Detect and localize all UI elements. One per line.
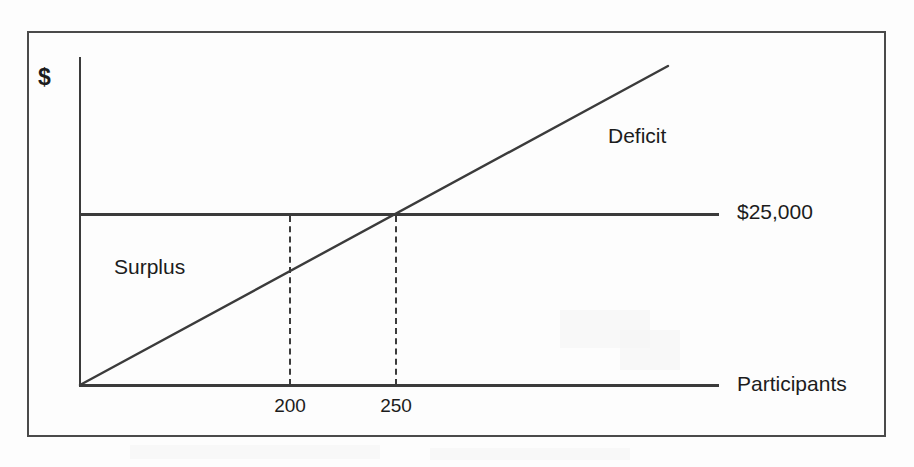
surplus-region-label: Surplus	[114, 255, 185, 279]
y-axis-label: $	[38, 64, 51, 91]
deficit-region-label: Deficit	[608, 124, 666, 148]
x-tick-label-250: 250	[380, 395, 412, 417]
x-tick-label-200: 200	[274, 395, 306, 417]
x-axis-title: Participants	[737, 372, 847, 396]
chart-screenshot: $ Deficit Surplus $25,000 Participants 2…	[0, 0, 914, 467]
threshold-value-label: $25,000	[737, 200, 813, 224]
plot-area: $ Deficit Surplus $25,000 Participants 2…	[0, 0, 914, 467]
cost-line	[0, 0, 914, 467]
